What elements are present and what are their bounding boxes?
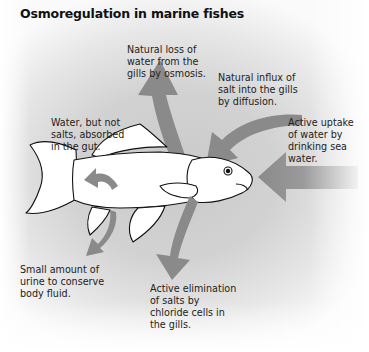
label-urine: Small amount of urine to conserve body f… xyxy=(20,264,104,300)
label-salt-elimination: Active elimination of salts by chloride … xyxy=(150,283,236,331)
label-gut-absorption: Water, but not salts, absorbed in the gu… xyxy=(51,117,124,153)
label-drinking: Active uptake of water by drinking sea w… xyxy=(288,117,354,165)
label-salt-influx: Natural influx of salt into the gills by… xyxy=(218,72,298,108)
diagram-title: Osmoregulation in marine fishes xyxy=(20,6,244,21)
label-water-loss: Natural loss of water from the gills by … xyxy=(127,44,206,80)
